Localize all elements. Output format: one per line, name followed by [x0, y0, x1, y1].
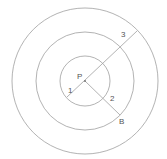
center-point-p — [84, 80, 86, 82]
line-p-to-b — [85, 81, 120, 115]
diagonal-line-1-to-3 — [67, 31, 137, 97]
label-2: 2 — [110, 94, 115, 103]
label-1: 1 — [68, 86, 73, 95]
label-3: 3 — [121, 30, 126, 39]
concentric-circles-diagram: P 1 2 3 B — [0, 0, 167, 159]
label-p: P — [77, 72, 82, 81]
label-b: B — [119, 117, 124, 126]
